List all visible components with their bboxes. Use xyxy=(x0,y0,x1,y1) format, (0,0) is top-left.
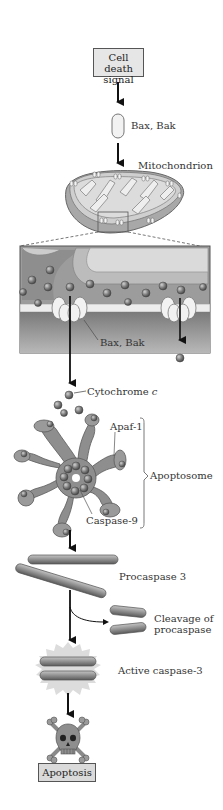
cleaved-fragments-icon xyxy=(110,605,147,635)
cytochrome-c-icon xyxy=(54,391,83,417)
cytochrome-text: Cytochrome xyxy=(87,386,152,397)
apoptosis-pathway-diagram xyxy=(0,0,223,810)
mitochondrion-label: Mitochondrion xyxy=(138,160,213,171)
bax-bak-protein-icon xyxy=(112,114,124,138)
apaf1-label: Apaf-1 xyxy=(110,421,143,432)
procaspase3-label: Procaspase 3 xyxy=(119,571,186,582)
signal-line2: signal xyxy=(94,74,143,85)
procaspase-rod-icon xyxy=(15,555,118,599)
cleavage-label: Cleavage of procaspase xyxy=(154,613,214,635)
apoptosome-label: Apoptosome xyxy=(150,470,213,481)
apoptosis-box: Apoptosis xyxy=(38,763,96,782)
cytochrome-c-italic: c xyxy=(152,386,158,397)
cleavage-arrow-icon xyxy=(70,607,104,622)
mitochondrion-icon xyxy=(66,171,184,233)
apoptosome-bracket xyxy=(140,418,148,528)
starburst-icon xyxy=(35,642,101,696)
cell-death-signal-box: Cell death signal xyxy=(93,48,144,77)
caspase9-label: Caspase-9 xyxy=(86,515,138,526)
skull-crossbones-icon xyxy=(47,717,89,763)
bax-bak-inset-label: Bax, Bak xyxy=(100,337,145,348)
cleavage-line1: Cleavage of xyxy=(154,613,214,624)
cytochrome-c-label: Cytochrome c xyxy=(87,386,157,397)
bax-bak-label: Bax, Bak xyxy=(131,120,176,131)
cleavage-line2: procaspase xyxy=(154,624,214,635)
active-caspase3-label: Active caspase-3 xyxy=(118,665,203,676)
signal-line1: Cell death xyxy=(94,52,143,74)
